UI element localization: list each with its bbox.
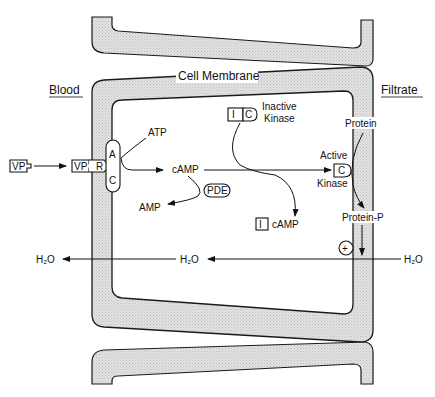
regulatory-subunit-camp: I cAMP <box>256 218 299 230</box>
svg-text:A: A <box>109 149 116 160</box>
water-filtrate-label: H₂O <box>404 254 423 265</box>
water-blood-label: H₂O <box>36 254 55 265</box>
svg-text:C: C <box>338 165 345 176</box>
atp-label: ATP <box>148 127 167 138</box>
svg-text:C: C <box>245 109 252 120</box>
svg-text:VP: VP <box>12 161 26 172</box>
camp-label: cAMP <box>172 164 199 175</box>
adenylate-cyclase: A C <box>106 140 120 192</box>
cell-membrane-label: Cell Membrane <box>178 69 260 83</box>
filtrate-label: Filtrate <box>381 83 418 97</box>
water-cell-label: H₂O <box>180 254 199 265</box>
active-label-1: Active <box>320 150 348 161</box>
amp-label: AMP <box>139 202 161 213</box>
stimulation-plus-icon: + <box>339 241 353 255</box>
svg-text:+: + <box>342 243 348 254</box>
svg-text:PDE: PDE <box>207 185 228 196</box>
top-cell-membrane <box>92 17 373 66</box>
active-label-2: Kinase <box>317 178 348 189</box>
svg-text:cAMP: cAMP <box>272 219 299 230</box>
bottom-cell-membrane <box>92 342 373 384</box>
vasopressin-diagram: Cell Membrane Blood Filtrate VP VP R A C… <box>0 0 435 397</box>
inactive-label-1: Inactive <box>262 101 297 112</box>
active-kinase: C <box>334 164 351 177</box>
blood-label: Blood <box>49 83 80 97</box>
inactive-label-2: Kinase <box>264 113 295 124</box>
vasopressin-free: VP <box>10 160 31 172</box>
vasopressin-receptor-complex: VP R <box>72 160 109 172</box>
protein-p-label: Protein-P <box>342 212 384 223</box>
svg-text:I: I <box>259 219 262 230</box>
inactive-kinase: I C <box>228 108 257 121</box>
pde-enzyme: PDE <box>204 184 230 197</box>
svg-text:VP: VP <box>74 161 88 172</box>
svg-text:I: I <box>232 109 235 120</box>
receptor-label: R <box>96 161 103 172</box>
svg-text:C: C <box>109 175 116 186</box>
protein-label: Protein <box>345 118 377 129</box>
